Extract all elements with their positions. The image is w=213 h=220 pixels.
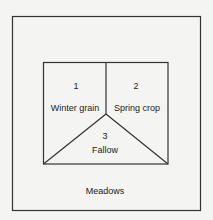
field-divider-left bbox=[44, 114, 107, 164]
field-1-number: 1 bbox=[73, 82, 78, 91]
field-2-name: Spring crop bbox=[114, 104, 160, 113]
field-2-number: 2 bbox=[133, 82, 138, 91]
field-divider-right bbox=[106, 114, 168, 164]
field-1-name: Winter grain bbox=[51, 104, 100, 113]
field-3-name: Fallow bbox=[92, 146, 118, 155]
meadows-label: Meadows bbox=[86, 187, 125, 196]
field-3-number: 3 bbox=[102, 132, 107, 141]
